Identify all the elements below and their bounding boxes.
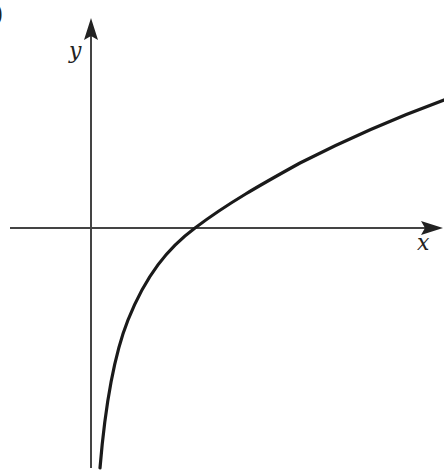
panel-label-fragment: ) [0, 0, 3, 28]
log-function-graph: ) x y [0, 0, 444, 475]
x-axis: x [10, 221, 443, 255]
y-axis-label: y [68, 38, 82, 63]
x-axis-label: x [417, 230, 430, 255]
y-axis: y [68, 18, 98, 468]
log-curve [100, 100, 444, 468]
